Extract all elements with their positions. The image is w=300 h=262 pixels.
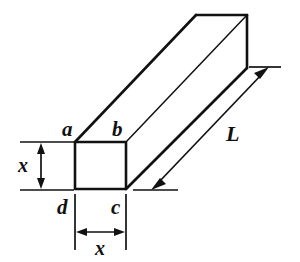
label-vertex-d: d [57, 197, 68, 218]
label-vertex-a: a [62, 119, 73, 140]
prism-drawing [0, 0, 300, 262]
length-dim-arrow-near [151, 178, 166, 190]
label-height-dimension: x [18, 155, 28, 175]
geometry-figure: a b c d x x L [0, 0, 300, 262]
horizontal-dim-arrow-right [114, 228, 125, 236]
horizontal-dim-arrow-left [76, 228, 87, 236]
front-face-fill [75, 142, 126, 189]
label-width-dimension: x [95, 238, 105, 258]
vertical-dim-arrow-up [37, 143, 45, 154]
length-dim-arrow-far [254, 67, 269, 79]
label-length-dimension: L [226, 123, 239, 145]
label-vertex-c: c [111, 197, 120, 218]
label-vertex-b: b [112, 119, 123, 140]
vertical-dim-arrow-down [37, 178, 45, 189]
